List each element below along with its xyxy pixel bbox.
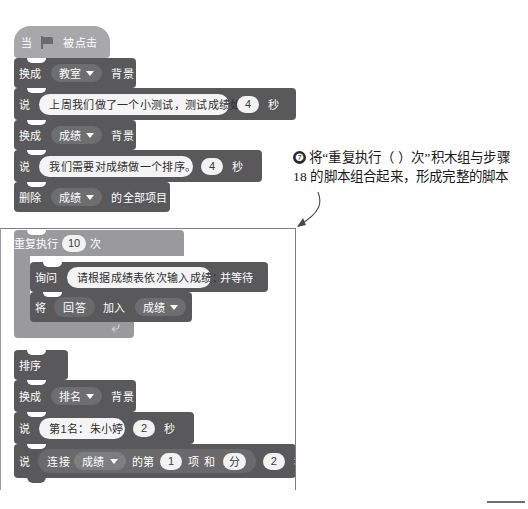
chevron-down-icon <box>110 459 118 464</box>
green-flag-icon <box>41 36 54 49</box>
page-rule-mark <box>487 501 525 503</box>
backdrop-label: 背景 <box>106 65 139 81</box>
item-index-input[interactable]: 1 <box>160 453 182 470</box>
block-notch <box>27 88 46 93</box>
backdrop-label: 背景 <box>106 388 139 404</box>
backdrop-dropdown[interactable]: 成绩 <box>51 126 103 144</box>
block-say-need-sort[interactable]: 说 我们需要对成绩做一个排序。 4 秒 <box>14 150 262 182</box>
block-bump <box>27 477 46 483</box>
ask-label: 询问 <box>30 269 63 285</box>
chevron-down-icon <box>86 195 94 200</box>
times-label: 次 <box>90 235 101 251</box>
block-say-first-place[interactable]: 说 第1名：朱小婷 2 秒 <box>14 412 194 444</box>
backdrop-dropdown[interactable]: 排名 <box>51 387 103 405</box>
chevron-down-icon <box>86 394 94 399</box>
script-canvas: 当 被点击 换成 教室 背景 说 上周我们做了一个小测试，测试成绩如下： 4 秒… <box>0 0 528 509</box>
when-label: 当 <box>16 34 37 50</box>
repeat-label: 重复执行 <box>14 235 58 251</box>
join-label: 连接 <box>47 453 70 469</box>
block-notch <box>27 182 46 187</box>
block-say-join-score[interactable]: 说 连接 成绩 的第 1 项 和 分 2 秒 <box>14 444 296 478</box>
say-seconds-input[interactable]: 2 <box>263 453 285 470</box>
backdrop-dropdown-value: 教室 <box>59 65 82 81</box>
join-reporter[interactable]: 连接 成绩 的第 1 项 和 分 <box>38 449 256 473</box>
list-dropdown[interactable]: 成绩 <box>51 188 103 206</box>
block-notch <box>27 58 46 63</box>
add-to-label: 加入 <box>98 299 131 315</box>
backdrop-dropdown[interactable]: 教室 <box>51 64 103 82</box>
item-of-label: 的第 <box>132 453 155 469</box>
list-dropdown[interactable]: 成绩 <box>135 298 187 316</box>
callout-text: 将“重复执行（ ）次”积木组与步骤 18 的脚本组合起来，形成完整的脚本 <box>293 150 510 184</box>
block-notch <box>27 230 46 235</box>
repeat-arm <box>14 256 30 318</box>
chevron-down-icon <box>86 133 94 138</box>
seconds-label: 秒 <box>159 420 180 436</box>
say-seconds-input[interactable]: 4 <box>201 158 223 175</box>
block-switch-backdrop-classroom[interactable]: 换成 教室 背景 <box>14 58 136 88</box>
block-switch-backdrop-scores[interactable]: 换成 成绩 背景 <box>14 120 136 150</box>
switch-label: 换成 <box>14 127 47 143</box>
item-unit-label: 项 <box>188 453 199 469</box>
clicked-label: 被点击 <box>58 34 102 50</box>
say-text-input[interactable]: 第1名：朱小婷 <box>39 418 125 439</box>
say-seconds-input[interactable]: 2 <box>133 420 155 437</box>
sort-label: 排序 <box>14 357 47 373</box>
frame-right-line <box>295 228 296 490</box>
say-label: 说 <box>14 158 35 174</box>
block-notch <box>27 150 46 155</box>
say-label: 说 <box>14 420 35 436</box>
block-say-intro[interactable]: 说 上周我们做了一个小测试，测试成绩如下： 4 秒 <box>14 88 296 120</box>
block-notch <box>43 262 62 267</box>
delete-label: 删除 <box>14 189 47 205</box>
all-items-label: 的全部项目 <box>106 189 173 205</box>
join-suffix-input[interactable]: 分 <box>223 453 246 470</box>
say-label: 说 <box>14 453 35 469</box>
switch-label: 换成 <box>14 388 47 404</box>
frame-top-line <box>0 228 296 229</box>
repeat-header[interactable]: 重复执行 10 次 <box>14 230 184 256</box>
say-seconds-input[interactable]: 4 <box>237 96 259 113</box>
list-dropdown[interactable]: 成绩 <box>74 452 126 470</box>
backdrop-dropdown-value: 排名 <box>59 388 82 404</box>
callout-number: ❼ <box>293 151 306 164</box>
block-notch <box>27 444 46 449</box>
block-notch <box>27 412 46 417</box>
leader-arrow-icon <box>292 190 332 235</box>
block-notch <box>43 292 62 297</box>
block-sort[interactable]: 排序 <box>14 350 68 380</box>
say-text-input[interactable]: 上周我们做了一个小测试，测试成绩如下： <box>39 94 229 115</box>
say-text-input[interactable]: 我们需要对成绩做一个排序。 <box>39 156 193 177</box>
answer-reporter[interactable]: 回答 <box>54 297 95 317</box>
list-dropdown-value: 成绩 <box>143 299 166 315</box>
list-dropdown-value: 成绩 <box>59 189 82 205</box>
block-ask-and-wait[interactable]: 询问 请根据成绩表依次输入成绩： 并等待 <box>30 262 268 292</box>
block-when-flag-clicked[interactable]: 当 被点击 <box>14 26 110 58</box>
and-label: 和 <box>204 453 215 469</box>
frame-left-line <box>0 228 1 490</box>
block-switch-backdrop-ranking[interactable]: 换成 排名 背景 <box>14 380 136 412</box>
block-notch <box>27 380 46 385</box>
list-dropdown-value: 成绩 <box>82 453 105 469</box>
block-notch <box>27 120 46 125</box>
block-add-answer-to-list[interactable]: 将 回答 加入 成绩 <box>30 292 192 322</box>
seconds-label: 秒 <box>227 158 248 174</box>
repeat-count-input[interactable]: 10 <box>62 235 86 252</box>
chevron-down-icon <box>170 305 178 310</box>
block-notch <box>27 350 46 355</box>
chevron-down-icon <box>86 71 94 76</box>
and-wait-label: 并等待 <box>215 269 259 285</box>
backdrop-dropdown-value: 成绩 <box>59 127 82 143</box>
callout-annotation: ❼将“重复执行（ ）次”积木组与步骤 18 的脚本组合起来，形成完整的脚本 <box>293 148 525 186</box>
block-delete-all-of-list[interactable]: 删除 成绩 的全部项目 <box>14 182 170 212</box>
put-label: 将 <box>30 299 51 315</box>
backdrop-label: 背景 <box>106 127 139 143</box>
seconds-label: 秒 <box>263 96 284 112</box>
say-label: 说 <box>14 96 35 112</box>
seconds-label: 秒 <box>289 453 310 469</box>
ask-question-input[interactable]: 请根据成绩表依次输入成绩： <box>67 267 211 288</box>
switch-label: 换成 <box>14 65 47 81</box>
